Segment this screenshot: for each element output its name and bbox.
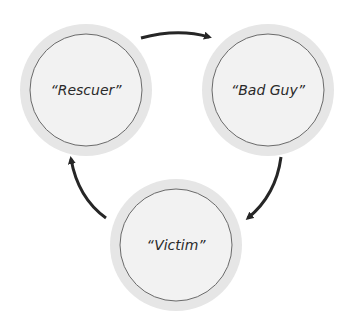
- arrow-rescuer-to-bad-guy-icon: [141, 33, 209, 38]
- node-label-victim: “Victim”: [146, 237, 206, 253]
- node-label-bad-guy: “Bad Guy”: [231, 82, 306, 98]
- arrow-victim-to-rescuer-icon: [71, 159, 106, 218]
- arrow-bad-guy-to-victim-icon: [248, 157, 281, 218]
- drama-triangle-diagram: “Rescuer” “Bad Guy” “Victim”: [0, 0, 348, 322]
- node-bad-guy: “Bad Guy”: [202, 24, 334, 156]
- node-rescuer: “Rescuer”: [20, 24, 152, 156]
- node-label-rescuer: “Rescuer”: [50, 82, 122, 98]
- node-victim: “Victim”: [110, 179, 242, 311]
